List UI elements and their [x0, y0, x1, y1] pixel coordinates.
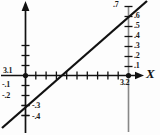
graph-figure: 3.1 3.2 X .7 .6 .5 .4 .3 .2 .1 -.1 -.2 -…	[0, 0, 160, 135]
y-axis-arrowhead	[22, 1, 30, 11]
y-tick-label-0-1: .1	[134, 61, 140, 70]
y-tick-label-0-2: .2	[134, 51, 140, 60]
y-tick-label-neg-0-4: -.4	[32, 112, 40, 121]
x-tick-label-3-2: 3.2	[120, 78, 129, 87]
y-tick-label-neg-0-1: -.1	[2, 80, 10, 89]
y-tick-label-0-5: .5	[134, 21, 140, 30]
y-tick-label-0-4: .4	[134, 31, 140, 40]
y-tick-label-neg-0-3: -.3	[32, 101, 40, 110]
x-tick-label-3-1: 3.1	[3, 66, 12, 75]
y-tick-label-0-7: .7	[113, 0, 119, 9]
x-axis-label: X	[146, 66, 155, 82]
x-axis-arrowhead	[135, 72, 144, 80]
y-tick-label-0-6: .6	[134, 11, 140, 20]
y-tick-label-0-3: .3	[134, 41, 140, 50]
plotted-line	[2, 1, 147, 128]
marker-point-3-1	[23, 73, 28, 78]
y-tick-label-neg-0-2: -.2	[2, 91, 10, 100]
